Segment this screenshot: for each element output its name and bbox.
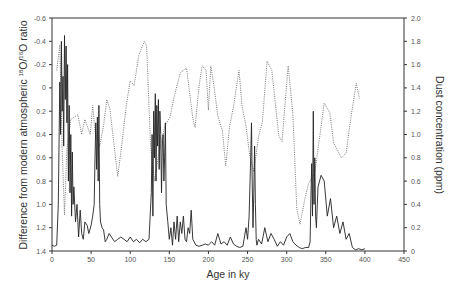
x-tick-label: 250 [242,256,254,263]
plot-lines [52,36,365,250]
x-tick-label: 300 [281,256,293,263]
y-axis-label-left: Difference from modern atmospheric 18O/1… [17,20,29,249]
dust-concentration-line [52,36,365,250]
x-tick-label: 200 [203,256,215,263]
chart-svg: 050100150200250300350400450-0.6-0.4-0.20… [0,0,456,291]
y-tick-label-right: 0.8 [411,154,421,161]
y-tick-label-left: 0.8 [36,178,46,185]
x-tick-label: 100 [124,256,136,263]
y-tick-label-left: 0.6 [36,154,46,161]
chart-container: 050100150200250300350400450-0.6-0.4-0.20… [0,0,456,291]
y-tick-label-right: 2.0 [411,15,421,22]
y-tick-label-left: 0.2 [36,108,46,115]
y-tick-label-right: 1.2 [411,108,421,115]
axes [49,18,407,254]
y-axis-label-right: Dust concentration (ppm) [434,76,446,194]
y-tick-label-left: 1.2 [36,224,46,231]
y-tick-label-right: 0.4 [411,201,421,208]
y-label-post: O ratio [17,20,29,52]
y-tick-label-left: -0.2 [34,61,46,68]
y-tick-label-right: 0.2 [411,224,421,231]
x-tick-label: 350 [320,256,332,263]
y-tick-label-right: 1.4 [411,84,421,91]
y-tick-label-right: 1.0 [411,131,421,138]
y-label-mid: O/ [17,59,29,70]
x-axis-label: Age in ky [206,268,250,280]
x-tick-label: 400 [359,256,371,263]
y-tick-label-left: 1.4 [36,248,46,255]
y-tick-label-right: 1.8 [411,38,421,45]
y-tick-label-right: 0.6 [411,178,421,185]
y-label-pre: Difference from modern atmospheric [17,76,29,249]
y-tick-label-right: 0 [411,248,415,255]
y-tick-label-right: 1.6 [411,61,421,68]
y-tick-label-left: -0.6 [34,15,46,22]
y-tick-label-left: -0.4 [34,38,46,45]
y-tick-label-left: 1.0 [36,201,46,208]
y-tick-label-left: 0 [42,84,46,91]
tick-labels: 050100150200250300350400450-0.6-0.4-0.20… [34,15,421,264]
x-tick-label: 50 [87,256,95,263]
x-tick-label: 450 [398,256,410,263]
x-tick-label: 150 [163,256,175,263]
y-tick-label-left: 0.4 [36,131,46,138]
x-tick-label: 0 [50,256,54,263]
